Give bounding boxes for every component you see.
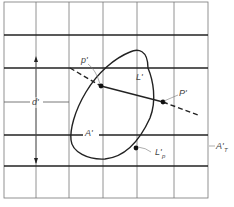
label-L-prime: L' <box>136 72 143 82</box>
arrow-up-icon <box>34 56 38 62</box>
label-L-p-prime: L' <box>155 147 162 157</box>
label-L-p-sub: p <box>161 153 166 159</box>
label-A-T-sub: T <box>224 147 229 153</box>
point-p-prime <box>99 84 104 89</box>
point-L-p-prime <box>134 146 139 151</box>
line-L-dashed-right <box>163 102 198 115</box>
ellipse-outline <box>71 50 154 159</box>
label-A-prime: A' <box>84 128 93 138</box>
leader-P-prime <box>164 95 178 101</box>
label-A-T-prime: A' <box>215 141 224 151</box>
label-p-prime: p' <box>80 55 88 65</box>
diagram-canvas: p' L' P' d' A' L' p A' T <box>0 0 234 207</box>
point-P-prime <box>161 100 166 105</box>
d-dimension-arrow <box>4 56 69 164</box>
arrow-down-icon <box>34 158 38 164</box>
label-P-prime: P' <box>179 88 187 98</box>
label-d-prime: d' <box>32 97 39 107</box>
leader-L-p-prime <box>138 147 151 152</box>
